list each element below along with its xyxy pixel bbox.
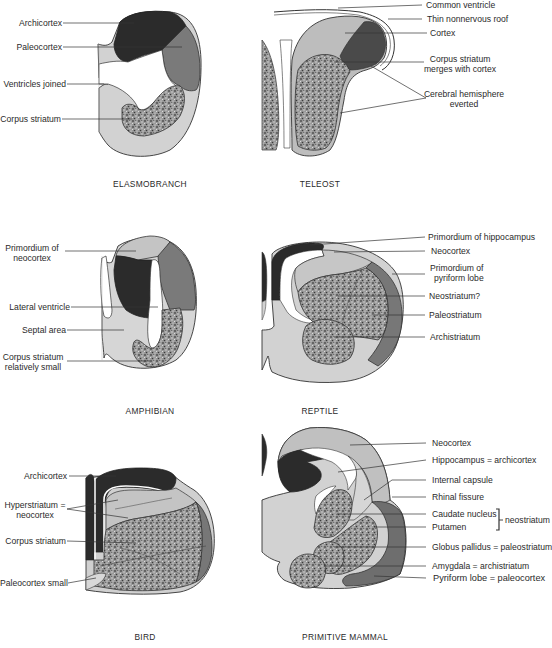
label-corpus-small-2: relatively small: [0, 362, 66, 372]
label-thin-nonnervous-roof: Thin nonnervous roof: [427, 14, 508, 24]
label-teleost-cortex: Cortex: [430, 28, 455, 38]
label-corpus-striatum-merges-1: Corpus striatum: [420, 54, 500, 64]
leader-everted-1: [371, 66, 426, 98]
panel-amphibian: [65, 236, 196, 368]
label-elasmobranch-archicortex: Archicortex: [0, 18, 62, 28]
reptile-left-edge: [262, 300, 266, 320]
label-reptile-neocortex: Neocortex: [431, 246, 470, 256]
caption-amphibian: AMPHIBIAN: [115, 406, 185, 416]
label-primordium-pyriform-2: pyriform lobe: [434, 273, 484, 283]
teleost-midline-gap: [280, 40, 292, 148]
label-bird-corpus-striatum: Corpus striatum: [0, 536, 66, 546]
label-caudate-nucleus: Caudate nucleus: [432, 509, 497, 519]
label-ventricles-joined: Ventricles joined: [0, 79, 66, 89]
label-hyperstriatum-2: neocortex: [0, 510, 70, 520]
label-paleostriatum: Paleostriatum: [429, 310, 482, 320]
reptile-left-hemisphere: [262, 252, 267, 302]
label-hippocampus-archicortex: Hippocampus = archicortex: [432, 455, 536, 465]
label-primordium-hippocampus: Primordium of hippocampus: [428, 232, 535, 242]
caption-bird: BIRD: [120, 632, 170, 642]
caption-teleost: TELEOST: [290, 179, 350, 189]
label-lateral-ventricle: Lateral ventricle: [0, 302, 70, 312]
label-primordium-pyriform-1: Primordium of: [430, 263, 483, 273]
label-corpus-striatum-merges-2: merges with cortex: [420, 64, 500, 74]
teleost-left-hemisphere: [262, 40, 279, 150]
label-elasmobranch-paleocortex: Paleocortex: [0, 42, 62, 52]
label-elasmobranch-corpus-striatum: Corpus striatum: [0, 114, 61, 124]
panel-bird: [67, 468, 214, 594]
panel-teleost: [262, 5, 427, 156]
label-primordium-neocortex-2: neocortex: [0, 253, 64, 263]
caption-elasmobranch: ELASMOBRANCH: [110, 179, 190, 189]
label-amygdala: Amygdala = archistriatum: [432, 561, 529, 571]
mammal-left-hemisphere: [262, 434, 267, 476]
label-corpus-small-1: Corpus striatum: [0, 352, 66, 362]
mammal-amygdala-region: [290, 554, 326, 588]
label-globus-pallidus: Globus pallidus = paleostriatum: [432, 542, 552, 552]
label-pyriform-lobe: Pyriform lobe = paleocortex: [433, 573, 545, 583]
panel-elasmobranch: [62, 11, 201, 156]
label-neostriatum: Neostriatum?: [429, 291, 480, 301]
label-hyperstriatum-1: Hyperstriatum =: [0, 500, 70, 510]
label-paleocortex-small: Paleocortex small: [0, 578, 67, 588]
leader-common-ventricle: [338, 5, 422, 8]
caption-primitive-mammal: PRIMITIVE MAMMAL: [295, 632, 395, 642]
label-cerebral-hemisphere-2: everted: [422, 99, 506, 109]
label-septal-area: Septal area: [0, 325, 66, 335]
label-cerebral-hemisphere-1: Cerebral hemisphere: [422, 89, 506, 99]
label-primordium-neocortex-1: Primordium of: [0, 243, 64, 253]
label-rhinal-fissure: Rhinal fissure: [432, 492, 484, 502]
label-archistriatum: Archistriatum: [430, 332, 480, 342]
leader-everted-2: [340, 98, 426, 113]
label-mammal-neocortex: Neocortex: [432, 438, 471, 448]
label-common-ventricle: Common ventricle: [426, 0, 495, 10]
leader-primordium-hippocampus: [310, 237, 425, 245]
panel-reptile: [262, 237, 425, 383]
label-neostriatum-group: neostriatum: [505, 515, 550, 525]
label-internal-capsule: Internal capsule: [432, 475, 493, 485]
bird-midline-bar: [86, 474, 94, 560]
label-bird-archicortex: Archicortex: [0, 471, 67, 481]
label-putamen: Putamen: [432, 522, 466, 532]
caption-reptile: REPTILE: [290, 406, 350, 416]
